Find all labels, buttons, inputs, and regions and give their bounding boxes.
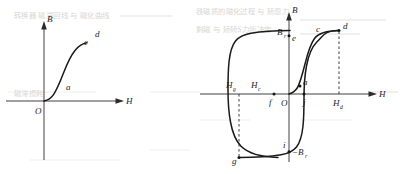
right-point-label-d: d (343, 21, 348, 31)
right-point-label-a: a (303, 77, 308, 87)
right-label-Hc-base: H (250, 80, 258, 90)
right-label-Hg-base: H (225, 80, 233, 90)
right-point-label-g: g (232, 156, 237, 166)
right-label-Hd-subscript: d (340, 104, 343, 110)
left-y-axis-label: B (47, 14, 53, 24)
right-point-dot-i (288, 150, 291, 153)
right-point-label-f: f (269, 97, 273, 107)
left-point-label-d: d (95, 29, 100, 39)
right-label-negative-Br: −B r (292, 147, 308, 159)
right-point-label-j: j (302, 97, 306, 107)
right-point-dot-a (299, 85, 302, 88)
right-label-negative-Br-base: −B (292, 147, 304, 157)
left-chart: B H O a c d (6, 14, 133, 160)
left-point-label-a: a (66, 82, 71, 92)
figure-root: 转换器 磁滞回线 与 磁化曲线 铁磁质的磁化过程 与 矫忽力 剩磁 与 矫矫S力… (0, 0, 402, 174)
left-x-axis-arrow-icon (116, 98, 125, 104)
right-label-Hg: H g (225, 80, 236, 92)
right-label-Br-subscript: r (284, 33, 287, 39)
right-point-dot-d (338, 29, 341, 32)
right-point-dot-j (303, 93, 306, 96)
left-x-axis (6, 98, 124, 104)
right-point-label-i: i (283, 140, 286, 150)
left-point-label-c: c (84, 37, 88, 47)
right-label-Hc: H c (250, 80, 261, 92)
left-x-axis-label: H (125, 96, 133, 106)
right-point-dot-f (273, 93, 276, 96)
right-label-Hg-subscript: g (233, 86, 236, 92)
left-origin-label: O (35, 106, 42, 116)
right-point-label-e: e (292, 33, 296, 43)
right-x-axis-label: H (378, 89, 386, 99)
ghost-line-2: 铁磁质的磁化过程 与 矫忽力 (196, 7, 289, 16)
left-y-axis-arrow-icon (41, 21, 47, 30)
right-label-Br: B r (277, 27, 287, 39)
right-y-axis-label: B (292, 5, 298, 15)
right-point-dot-g (238, 156, 241, 159)
right-label-Br-base: B (277, 27, 283, 37)
right-point-dot-e (288, 34, 291, 37)
ghost-line-4: 磁滞损耗 (14, 89, 44, 98)
right-label-Hd-base: H (332, 98, 340, 108)
right-point-label-c: c (316, 24, 320, 34)
right-initial-curve-Oacd (289, 31, 339, 94)
right-origin-label: O (281, 98, 288, 108)
ghost-line-1: 转换器 磁滞回线 与 磁化曲线 (14, 11, 110, 20)
right-label-negative-Br-subscript: r (305, 153, 308, 159)
right-label-Hc-subscript: c (258, 86, 261, 92)
right-label-Hd: H d (332, 98, 343, 110)
bh-curves-figure: 转换器 磁滞回线 与 磁化曲线 铁磁质的磁化过程 与 矫忽力 剩磁 与 矫矫S力… (0, 0, 402, 174)
